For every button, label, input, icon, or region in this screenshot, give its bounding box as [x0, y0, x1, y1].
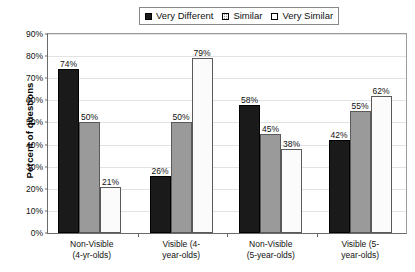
bar: 74% — [58, 69, 79, 233]
y-axis-tick-mark — [45, 210, 48, 211]
bar-value-label: 62% — [372, 86, 389, 96]
bar-value-label: 38% — [283, 139, 300, 149]
y-axis-tick-label: 70% — [26, 73, 43, 83]
bar-value-label: 79% — [193, 48, 210, 58]
bar: 58% — [239, 105, 260, 233]
y-axis-tick-label: 60% — [26, 95, 43, 105]
bar: 38% — [281, 149, 302, 233]
legend-swatch-icon-very-similar — [271, 13, 278, 20]
bar-group: 26%50%79% — [150, 34, 213, 233]
bar-value-label: 42% — [330, 130, 347, 140]
bar: 55% — [350, 111, 371, 233]
x-axis-tick-mark — [138, 233, 139, 237]
y-axis-tick-mark — [45, 233, 48, 234]
bar: 26% — [150, 176, 171, 233]
y-axis-tick-label: 20% — [26, 184, 43, 194]
x-axis-category-label-line: Non-Visible — [50, 239, 134, 250]
bar-value-label: 21% — [102, 177, 119, 187]
y-axis-tick-label: 80% — [26, 51, 43, 61]
x-axis-tick-mark — [227, 233, 228, 237]
bar: 79% — [192, 58, 213, 233]
y-axis-tick-label: 10% — [26, 206, 43, 216]
x-axis-category-label-line: year-olds) — [139, 250, 223, 261]
legend-label-very-different: Very Different — [156, 11, 213, 21]
y-axis-tick-label: 90% — [26, 29, 43, 39]
bar: 45% — [260, 134, 281, 234]
bar-value-label: 26% — [151, 166, 168, 176]
y-axis-tick-mark — [45, 188, 48, 189]
x-axis-category-label-line: Visible (4- — [139, 239, 223, 250]
plot-area: 0%10%20%30%40%50%60%70%80%90%74%50%21%26… — [47, 33, 407, 234]
y-axis-tick-mark — [45, 166, 48, 167]
legend-label-similar: Similar — [233, 11, 262, 21]
x-axis-category-label-line: (5-year-olds) — [229, 250, 313, 261]
y-axis-tick-mark — [45, 144, 48, 145]
legend-swatch-icon-similar — [222, 13, 229, 20]
legend-item-very-different: Very Different — [145, 11, 213, 21]
x-axis-category-label-line: Non-Visible — [229, 239, 313, 250]
bar-value-label: 55% — [351, 101, 368, 111]
bar: 21% — [100, 187, 121, 233]
legend-item-very-similar: Very Similar — [271, 11, 333, 21]
y-axis-tick-label: 0% — [31, 228, 43, 238]
bar-group: 74%50%21% — [58, 34, 121, 233]
bar-group: 42%55%62% — [329, 34, 392, 233]
y-axis-tick-label: 40% — [26, 140, 43, 150]
x-axis-category-label-line: year-olds) — [318, 250, 402, 261]
y-axis-tick-mark — [45, 100, 48, 101]
bar: 62% — [371, 96, 392, 233]
y-axis-tick-mark — [45, 122, 48, 123]
bar-value-label: 45% — [262, 124, 279, 134]
x-axis-category-label-line: (4-yr-olds) — [50, 250, 134, 261]
x-axis-tick-mark — [317, 233, 318, 237]
bar-value-label: 74% — [60, 59, 77, 69]
x-axis-category-label: Non-Visible(5-year-olds) — [229, 239, 313, 261]
legend-item-similar: Similar — [222, 11, 262, 21]
bar-value-label: 58% — [241, 95, 258, 105]
bar: 50% — [171, 122, 192, 233]
x-axis-category-label: Visible (5-year-olds) — [318, 239, 402, 261]
x-axis-category-label: Non-Visible(4-yr-olds) — [50, 239, 134, 261]
y-axis-tick-label: 50% — [26, 117, 43, 127]
y-axis-tick-mark — [45, 34, 48, 35]
bar: 42% — [329, 140, 350, 233]
bar-value-label: 50% — [81, 112, 98, 122]
x-axis-category-label: Visible (4-year-olds) — [139, 239, 223, 261]
y-axis-tick-mark — [45, 78, 48, 79]
chart-legend: Very Different Similar Very Similar — [139, 7, 339, 25]
legend-swatch-icon-very-different — [145, 13, 152, 20]
bar-group: 58%45%38% — [239, 34, 302, 233]
bar-chart: Very Different Similar Very Similar Perc… — [0, 0, 415, 272]
y-axis-tick-mark — [45, 56, 48, 57]
legend-label-very-similar: Very Similar — [282, 11, 333, 21]
bar: 50% — [79, 122, 100, 233]
bar-value-label: 50% — [172, 112, 189, 122]
x-axis-category-label-line: Visible (5- — [318, 239, 402, 250]
y-axis-tick-label: 30% — [26, 162, 43, 172]
